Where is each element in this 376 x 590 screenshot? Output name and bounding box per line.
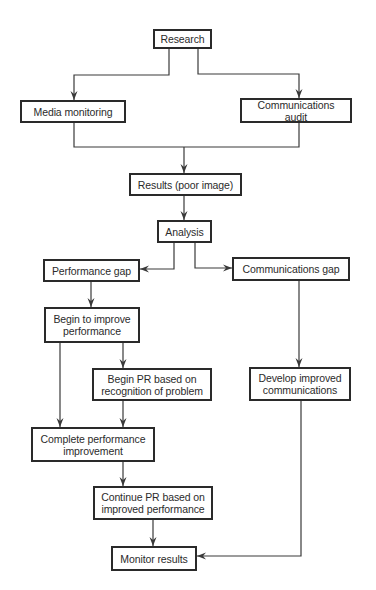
edge-analysis-to-performance-gap: [140, 243, 174, 269]
node-media-monitoring: Media monitoring: [20, 100, 126, 123]
edge-analysis-to-communications-gap: [195, 243, 232, 268]
edge-media-monitoring-to-merge: [74, 123, 299, 147]
node-analysis: Analysis: [157, 220, 212, 243]
edge-research-to-communications-audit: [198, 49, 299, 98]
node-communications-audit: Communications audit: [240, 98, 352, 123]
node-communications-gap: Communications gap: [232, 257, 350, 281]
node-continue-pr: Continue PR based on improved performanc…: [93, 486, 213, 520]
node-develop-comms: Develop improved communications: [249, 367, 351, 401]
node-begin-pr: Begin PR based on recognition of problem: [92, 368, 212, 401]
node-research: Research: [153, 29, 212, 49]
edge-develop-comms-to-monitor-results: [197, 401, 301, 556]
node-results: Results (poor image): [129, 173, 242, 196]
node-monitor-results: Monitor results: [111, 546, 197, 571]
node-begin-improve: Begin to improve performance: [44, 307, 140, 343]
node-complete-improvement: Complete performance improvement: [31, 427, 155, 462]
edge-research-to-media-monitoring: [74, 49, 169, 100]
flowchart-canvas: ResearchMedia monitoringCommunications a…: [0, 0, 376, 590]
node-performance-gap: Performance gap: [43, 259, 140, 282]
